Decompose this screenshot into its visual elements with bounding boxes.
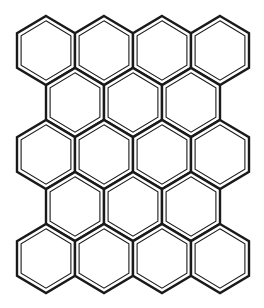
hexagon-tile-pattern bbox=[0, 0, 264, 308]
